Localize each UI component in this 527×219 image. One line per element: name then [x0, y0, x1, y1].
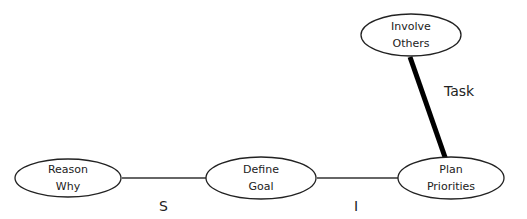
node-text-line2: Goal [211, 178, 311, 195]
edge-label-i: I [354, 198, 358, 214]
node-label-plan-priorities: Plan Priorities [401, 161, 501, 195]
edge-label-s: S [159, 198, 168, 214]
edge-involve-to-plan [410, 57, 446, 160]
node-text-line1: Involve [361, 18, 461, 35]
node-text-line1: Define [211, 161, 311, 178]
node-text-line2: Others [361, 35, 461, 52]
node-label-define-goal: Define Goal [211, 161, 311, 195]
node-text-line2: Priorities [401, 178, 501, 195]
edge-label-task: Task [444, 83, 474, 99]
node-text-line1: Reason [18, 161, 118, 178]
node-text-line2: Why [18, 178, 118, 195]
node-label-involve-others: Involve Others [361, 18, 461, 52]
node-text-line1: Plan [401, 161, 501, 178]
node-label-reason-why: Reason Why [18, 161, 118, 195]
